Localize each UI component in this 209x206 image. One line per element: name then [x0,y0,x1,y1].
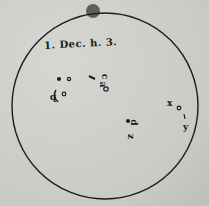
spot-label-b: b [50,93,56,102]
spot-label-c: c [100,74,109,79]
spot-label-d: d [129,119,138,125]
solar-disk-drawing [0,0,209,206]
spot-label-z: z [126,134,135,139]
sunspot [89,76,95,79]
spot-label-a: a [98,82,107,88]
sunspot [57,77,61,81]
sunspot [62,92,66,96]
sunspot [177,106,181,110]
spot-label-x: x [167,99,172,108]
sunspot [184,114,185,119]
spot-label-y: y [183,123,188,132]
sunspot [67,77,70,80]
